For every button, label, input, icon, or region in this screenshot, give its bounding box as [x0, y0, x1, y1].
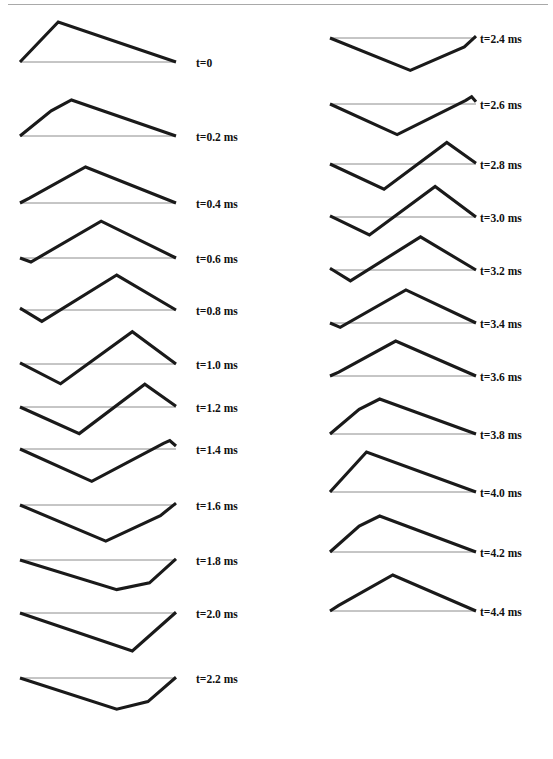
- time-label: t=1.4 ms: [196, 444, 238, 456]
- wave-pulse-curve: [330, 97, 476, 135]
- wave-pulse-curve: [330, 237, 476, 281]
- wave-pulse-curve: [330, 575, 476, 611]
- wave-pulse-curve: [20, 677, 176, 709]
- time-label: t=2.6 ms: [480, 99, 522, 111]
- wave-pulse-curve: [20, 384, 176, 433]
- waveform-panel: [20, 16, 180, 68]
- time-label: t=1.8 ms: [196, 555, 238, 567]
- wave-pulse-curve: [20, 503, 176, 541]
- waveform-panel: [20, 94, 180, 142]
- wave-pulse-curve: [20, 441, 176, 482]
- wave-pulse-curve: [330, 399, 476, 434]
- waveform-panel: [20, 434, 180, 488]
- time-label: t=3.4 ms: [480, 318, 522, 330]
- waveform-panel: [20, 497, 180, 548]
- time-label: t=3.2 ms: [480, 265, 522, 277]
- time-label: t=3.6 ms: [480, 371, 522, 383]
- time-label: t=2.0 ms: [196, 608, 238, 620]
- wave-pulse-curve: [330, 290, 476, 327]
- time-label: t=0: [196, 57, 212, 69]
- time-label: t=3.0 ms: [480, 212, 522, 224]
- waveform-panel: [20, 606, 180, 657]
- wave-pulse-curve: [20, 559, 176, 590]
- waveform-panel: [20, 161, 180, 209]
- wave-pulse-curve: [330, 341, 476, 376]
- waveform-panel: [330, 335, 480, 382]
- time-label: t=1.6 ms: [196, 500, 238, 512]
- time-label: t=3.8 ms: [480, 429, 522, 441]
- time-label: t=4.0 ms: [480, 487, 522, 499]
- wave-pulse-curve: [330, 186, 476, 235]
- waveform-panel: [330, 510, 480, 558]
- time-label: t=2.8 ms: [480, 159, 522, 171]
- waveform-panel: [20, 269, 180, 328]
- time-label: t=4.4 ms: [480, 606, 522, 618]
- waveform-panel: [330, 393, 480, 440]
- wave-pulse-curve: [330, 516, 476, 552]
- waveform-panel: [330, 30, 480, 77]
- top-horizontal-rule: [8, 4, 548, 5]
- time-label: t=0.8 ms: [196, 305, 238, 317]
- time-label: t=1.0 ms: [196, 359, 238, 371]
- waveform-panel: [330, 283, 480, 334]
- waveform-panel: [20, 552, 180, 596]
- time-label: t=2.4 ms: [480, 33, 522, 45]
- wave-pulse-curve: [330, 36, 476, 70]
- waveform-panel: [20, 215, 180, 268]
- waveform-panel: [330, 230, 480, 287]
- waveform-panel: [330, 569, 480, 617]
- wave-pulse-curve: [20, 332, 176, 384]
- wave-pulse-curve: [20, 167, 176, 203]
- waveform-panel: [330, 90, 480, 141]
- time-label: t=0.2 ms: [196, 131, 238, 143]
- time-label: t=0.4 ms: [196, 198, 238, 210]
- wave-pulse-curve: [20, 221, 176, 262]
- figure-root: t=0t=0.2 mst=0.4 mst=0.6 mst=0.8 mst=1.0…: [0, 0, 553, 759]
- wave-pulse-curve: [20, 612, 176, 651]
- time-label: t=2.2 ms: [196, 673, 238, 685]
- wave-pulse-curve: [330, 452, 476, 492]
- time-label: t=4.2 ms: [480, 547, 522, 559]
- wave-pulse-curve: [20, 100, 176, 136]
- wave-pulse-curve: [20, 22, 176, 62]
- waveform-panel: [330, 446, 480, 498]
- waveform-panel: [20, 671, 180, 716]
- time-label: t=0.6 ms: [196, 253, 238, 265]
- waveform-panel: [20, 378, 180, 440]
- time-label: t=1.2 ms: [196, 402, 238, 414]
- wave-pulse-curve: [20, 275, 176, 321]
